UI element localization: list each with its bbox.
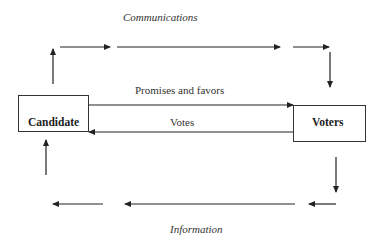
information-label: Information xyxy=(170,223,223,235)
voters-label: Voters xyxy=(312,116,344,128)
voters-node: Voters xyxy=(293,105,366,142)
communications-label: Communications xyxy=(123,11,198,23)
votes-label: Votes xyxy=(170,116,194,128)
information-loop-arrows xyxy=(46,140,336,204)
promises-label: Promises and favors xyxy=(135,84,224,96)
candidate-node: Candidate xyxy=(18,95,89,132)
candidate-label: Candidate xyxy=(28,116,79,128)
communications-loop-arrows xyxy=(53,47,330,87)
